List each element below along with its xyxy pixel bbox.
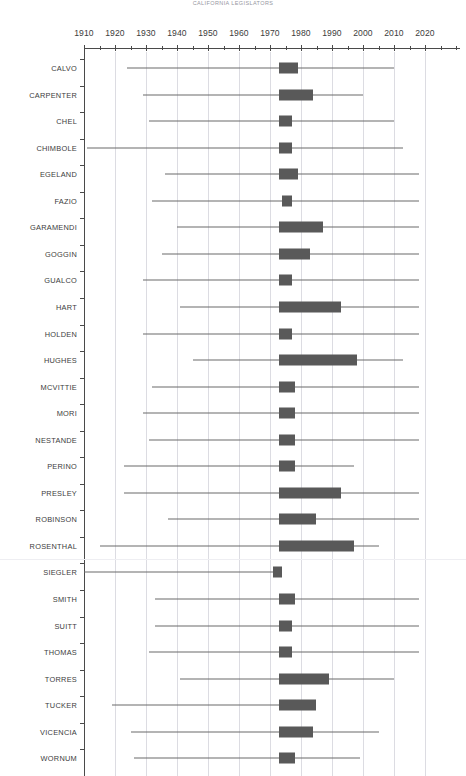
x-tick-minor — [441, 46, 442, 50]
x-axis-label: 1980 — [291, 28, 311, 38]
y-axis-category-label: TUCKER — [0, 701, 77, 710]
y-axis-category-label: CHEL — [0, 117, 77, 126]
y-axis-category-label: CALVO — [0, 64, 77, 73]
box-bar — [279, 753, 295, 764]
box-bar — [279, 594, 295, 605]
whisker-line — [124, 466, 353, 467]
x-axis-label: 1910 — [74, 28, 94, 38]
y-tick — [80, 325, 84, 326]
x-tick-minor — [379, 46, 380, 50]
x-tick-major — [177, 45, 178, 51]
x-axis-label: 1990 — [322, 28, 342, 38]
box-bar — [279, 514, 316, 525]
whisker-line — [134, 758, 360, 759]
x-tick-major — [270, 45, 271, 51]
whisker-line — [143, 94, 363, 95]
x-tick-minor — [255, 46, 256, 50]
box-bar — [279, 301, 341, 312]
box-bar — [279, 408, 295, 419]
y-axis-category-label: GUALCO — [0, 276, 77, 285]
y-tick — [80, 696, 84, 697]
vertical-gridline — [270, 52, 271, 776]
x-tick-major — [208, 45, 209, 51]
vertical-gridline — [301, 52, 302, 776]
y-tick — [80, 617, 84, 618]
box-bar — [279, 63, 298, 74]
box-bar — [279, 700, 316, 711]
box-bar — [282, 195, 291, 206]
y-axis-category-label: GARAMENDI — [0, 223, 77, 232]
y-tick — [80, 537, 84, 538]
whisker-line — [127, 68, 394, 69]
horizontal-separator — [0, 559, 466, 560]
y-tick — [80, 404, 84, 405]
box-bar — [279, 726, 313, 737]
y-axis-category-label: CHIMBOLE — [0, 143, 77, 152]
y-axis-category-label: TORRES — [0, 674, 77, 683]
y-axis-category-label: HOLDEN — [0, 329, 77, 338]
vertical-gridline — [425, 52, 426, 776]
y-axis-category-label: HUGHES — [0, 356, 77, 365]
x-axis-label: 2000 — [353, 28, 373, 38]
x-axis-label: 1950 — [198, 28, 218, 38]
x-axis-label: 2020 — [415, 28, 435, 38]
x-tick-major — [332, 45, 333, 51]
x-tick-minor — [100, 46, 101, 50]
y-tick — [80, 165, 84, 166]
y-tick — [80, 351, 84, 352]
y-axis-category-label: SIEGLER — [0, 568, 77, 577]
x-tick-minor — [456, 46, 457, 50]
box-bar — [279, 647, 291, 658]
y-axis-category-label: ROBINSON — [0, 515, 77, 524]
box-bar — [279, 116, 291, 127]
box-bar — [279, 620, 291, 631]
y-tick — [80, 749, 84, 750]
y-axis-category-label: SUITT — [0, 621, 77, 630]
x-tick-major — [394, 45, 395, 51]
x-axis-label: 1920 — [105, 28, 125, 38]
y-tick — [80, 457, 84, 458]
box-bar — [279, 434, 295, 445]
whisker-line — [131, 731, 379, 732]
x-tick-minor — [193, 46, 194, 50]
y-tick — [80, 59, 84, 60]
y-tick — [80, 590, 84, 591]
y-axis-category-label: PERINO — [0, 462, 77, 471]
box-bar — [279, 461, 295, 472]
whisker-line — [124, 492, 419, 493]
y-axis-category-label: GOGGIN — [0, 249, 77, 258]
x-tick-minor — [286, 46, 287, 50]
box-bar — [279, 673, 329, 684]
x-axis-label: 1960 — [229, 28, 249, 38]
x-tick-major — [425, 45, 426, 51]
y-tick — [80, 271, 84, 272]
x-tick-minor — [224, 46, 225, 50]
x-axis-label: 1970 — [260, 28, 280, 38]
y-axis-category-label: VICENCIA — [0, 727, 77, 736]
y-axis-category-label: NESTANDE — [0, 435, 77, 444]
box-bar — [279, 355, 357, 366]
y-tick — [80, 484, 84, 485]
y-tick — [80, 218, 84, 219]
y-tick — [80, 643, 84, 644]
y-axis-line — [84, 48, 85, 776]
vertical-gridline — [363, 52, 364, 776]
x-tick-minor — [131, 46, 132, 50]
box-bar — [279, 89, 313, 100]
y-tick — [80, 510, 84, 511]
y-axis-category-label: FAZIO — [0, 196, 77, 205]
x-tick-major — [363, 45, 364, 51]
y-axis-category-label: MORI — [0, 409, 77, 418]
x-tick-major — [301, 45, 302, 51]
box-bar — [279, 142, 291, 153]
y-tick — [80, 431, 84, 432]
box-bar — [279, 328, 291, 339]
box-bar — [279, 487, 341, 498]
box-bar — [279, 381, 295, 392]
vertical-gridline — [208, 52, 209, 776]
vertical-gridline — [239, 52, 240, 776]
whisker-line — [87, 147, 403, 148]
x-tick-minor — [410, 46, 411, 50]
